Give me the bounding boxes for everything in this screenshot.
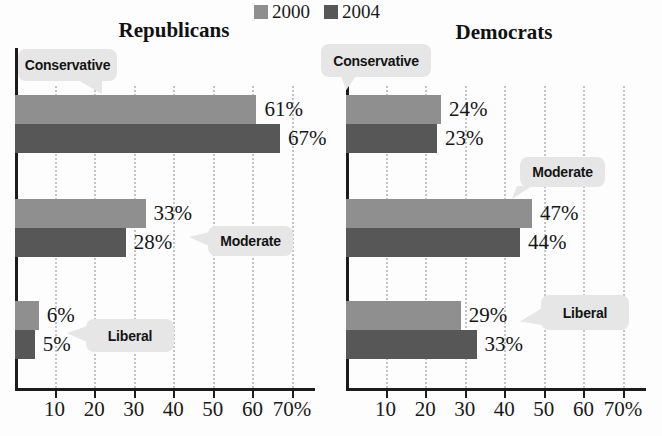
bar-value-label: 28% xyxy=(134,229,173,255)
bar-republicans-liberal-2000 xyxy=(15,301,39,330)
callout-label: Liberal xyxy=(108,328,153,344)
bar-value-label: 47% xyxy=(540,200,579,226)
callout-republicans-liberal: Liberal xyxy=(86,319,174,352)
bar-value-label: 29% xyxy=(469,302,508,328)
bar-value-label: 44% xyxy=(528,229,567,255)
callout-republicans-moderate: Moderate xyxy=(208,226,293,256)
callout-label: Conservative xyxy=(333,53,419,69)
x-axis-line xyxy=(346,388,646,391)
bar-value-label: 6% xyxy=(47,302,75,328)
callout-tail xyxy=(189,232,209,246)
callout-label: Moderate xyxy=(532,164,593,180)
chart-title-democrats: Democrats xyxy=(384,20,624,45)
callout-democrats-conservative: Conservative xyxy=(321,44,431,77)
callout-label: Liberal xyxy=(563,305,608,321)
bar-value-label: 33% xyxy=(485,331,524,357)
callout-democrats-liberal: Liberal xyxy=(541,295,629,330)
bar-value-label: 61% xyxy=(264,96,303,122)
callout-tail xyxy=(78,80,102,94)
gridline xyxy=(583,86,585,388)
bar-value-label: 67% xyxy=(288,125,327,151)
bar-value-label: 23% xyxy=(445,125,484,151)
legend-swatch-2004-icon xyxy=(324,5,338,19)
x-tick-label: 70% xyxy=(264,397,320,421)
x-tick-label: 70% xyxy=(595,397,651,421)
callout-republicans-conservative: Conservative xyxy=(18,49,117,81)
bar-democrats-conservative-2004 xyxy=(346,124,437,153)
x-axis-line xyxy=(15,388,315,391)
callout-tail xyxy=(512,186,532,199)
bar-value-label: 24% xyxy=(449,96,488,122)
callout-tail xyxy=(520,308,542,325)
legend-swatch-2000-icon xyxy=(254,5,268,19)
bar-value-label: 33% xyxy=(154,200,193,226)
chart-title-republicans: Republicans xyxy=(54,18,294,43)
callout-label: Moderate xyxy=(220,233,281,249)
legend-item-2004: 2004 xyxy=(324,2,380,22)
bar-democrats-liberal-2004 xyxy=(346,330,477,359)
figure: 2000 2004 Republicans Democrats 10203040… xyxy=(0,0,662,436)
bar-democrats-liberal-2000 xyxy=(346,301,461,330)
callout-democrats-moderate: Moderate xyxy=(520,157,605,187)
bar-democrats-moderate-2000 xyxy=(346,199,532,228)
bar-republicans-liberal-2004 xyxy=(15,330,35,359)
legend-label-2004: 2004 xyxy=(342,2,380,22)
bar-republicans-conservative-2000 xyxy=(15,95,256,124)
bar-democrats-moderate-2004 xyxy=(346,228,520,257)
callout-label: Conservative xyxy=(25,57,111,73)
bar-republicans-moderate-2004 xyxy=(15,228,126,257)
gridline xyxy=(623,86,625,388)
bar-republicans-conservative-2004 xyxy=(15,124,280,153)
bar-value-label: 5% xyxy=(43,331,71,357)
bar-democrats-conservative-2000 xyxy=(346,95,441,124)
bar-republicans-moderate-2000 xyxy=(15,199,146,228)
